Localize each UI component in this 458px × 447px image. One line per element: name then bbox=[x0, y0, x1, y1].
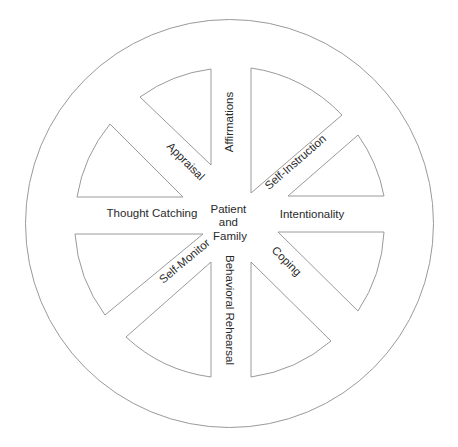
spoke-label-self-monitor: Self-Monitor bbox=[157, 236, 212, 285]
wedge-bottom-right bbox=[251, 262, 331, 377]
wedge-right-upper bbox=[288, 135, 384, 196]
spoke-label-thought-catching: Thought Catching bbox=[107, 207, 198, 219]
hub-label: Patient and Family bbox=[210, 203, 249, 242]
spoke-label-coping: Coping bbox=[270, 244, 304, 278]
wheel-diagram: Patient and Family Affirmations Self-Ins… bbox=[0, 0, 458, 447]
spoke-label-appraisal: Appraisal bbox=[165, 140, 207, 182]
hub-line-3: Family bbox=[213, 230, 247, 242]
hub-line-2: and bbox=[219, 216, 238, 228]
spoke-label-behavioral-rehearsal: Behavioral Rehearsal bbox=[224, 255, 236, 365]
wedge-left-upper bbox=[77, 124, 183, 197]
hub-line-1: Patient bbox=[210, 203, 247, 215]
spoke-label-self-instruction: Self-Instruction bbox=[262, 132, 328, 191]
wedge-left-lower bbox=[75, 234, 203, 315]
spoke-label-intentionality: Intentionality bbox=[280, 208, 345, 220]
wedge-top-right bbox=[251, 68, 342, 193]
spoke-label-affirmations: Affirmations bbox=[223, 92, 235, 153]
